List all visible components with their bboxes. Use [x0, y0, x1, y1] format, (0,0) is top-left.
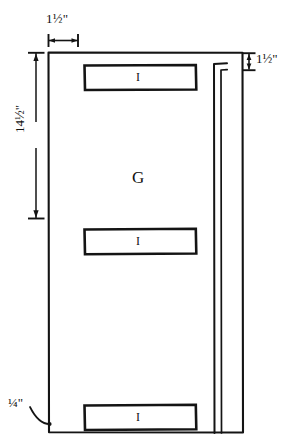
- top-dimension-arrow-right: [72, 38, 78, 42]
- part-label-rail-middle: I: [136, 234, 140, 249]
- thickness-leader-curve: [30, 407, 50, 424]
- dimension-label-thickness: ¼": [8, 396, 23, 409]
- left-dimension-arrow-bottom: [33, 210, 38, 218]
- dimension-label-right-height: 1½": [256, 52, 278, 65]
- technical-drawing-svg: [0, 0, 295, 441]
- drawing-canvas: 1½" 1½" 14½" ¼" G I I I: [0, 0, 295, 441]
- rail-middle: [85, 229, 197, 254]
- dimension-label-left-height: 14½": [13, 105, 26, 133]
- top-dimension-arrow-left: [49, 38, 55, 42]
- part-label-rail-top: I: [136, 70, 140, 85]
- part-label-rail-bottom: I: [136, 410, 140, 425]
- left-dimension-arrow-top: [33, 53, 38, 61]
- right-dimension-arrow-bottom: [247, 64, 252, 70]
- left-height-dimension: [28, 53, 45, 219]
- dimension-label-top-width: 1½": [46, 12, 68, 25]
- rail-top: [85, 65, 197, 90]
- thickness-leader-dot: [47, 422, 51, 426]
- top-width-dimension: [49, 34, 79, 47]
- right-height-dimension: [243, 53, 256, 70]
- rail-bottom: [85, 405, 197, 430]
- stile-channel-inner-line: [221, 70, 227, 433]
- stile-channel: [214, 63, 227, 433]
- rail-group: [85, 65, 197, 430]
- right-dimension-arrow-top: [247, 54, 252, 60]
- part-label-panel: G: [132, 168, 144, 188]
